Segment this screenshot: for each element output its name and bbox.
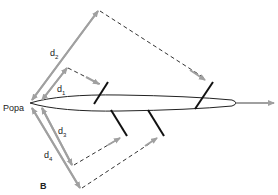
marker-line-4: [148, 110, 164, 136]
marker-line-3: [111, 110, 127, 136]
panel-label: B: [40, 181, 47, 191]
arrow-d4-back: [32, 108, 80, 188]
label-d3: d3: [58, 126, 66, 138]
label-d4: d4: [44, 150, 52, 162]
distance-diagram: [0, 0, 278, 195]
body-outline: [30, 95, 236, 111]
dash-d2-arrow: [190, 70, 205, 80]
dash-d3-arrow: [108, 138, 120, 145]
label-d2: d2: [50, 48, 58, 60]
dash-d2: [100, 11, 206, 79]
dash-d4-arrow: [145, 138, 157, 146]
label-d1: d1: [57, 84, 65, 96]
dash-d1-arrow: [86, 77, 99, 84]
stern-label: Popa: [3, 103, 24, 113]
marker-line-1: [94, 82, 108, 104]
marker-line-2: [195, 82, 213, 109]
